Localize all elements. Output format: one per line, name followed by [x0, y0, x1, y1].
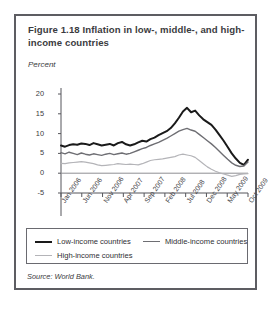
chart-legend: Low-income countriesMiddle-income countr…	[26, 228, 248, 264]
legend-swatch-icon	[143, 241, 160, 242]
legend-swatch-icon	[35, 241, 52, 243]
y-axis-tick-label: 5	[28, 148, 44, 157]
y-axis-tick-label: 0	[28, 168, 44, 177]
figure-container: Figure 1.18 Inflation in low-, middle-, …	[14, 14, 257, 290]
legend-item: High-income countries	[35, 249, 133, 262]
y-axis-tick-label: -5	[28, 188, 44, 197]
y-axis-tick-label: 15	[28, 109, 44, 118]
y-axis-tick-label: 10	[28, 129, 44, 138]
series-line	[61, 108, 248, 165]
legend-label: Low-income countries	[57, 237, 131, 246]
legend-item: Middle-income countries	[143, 235, 247, 248]
legend-label: Middle-income countries	[165, 237, 247, 246]
y-axis-tick-label: 20	[28, 89, 44, 98]
legend-item: Low-income countries	[35, 235, 131, 248]
legend-swatch-icon	[35, 255, 52, 256]
legend-label: High-income countries	[57, 251, 133, 260]
source-note: Source: World Bank.	[27, 272, 95, 281]
figure-title: Figure 1.18 Inflation in low-, middle-, …	[28, 24, 246, 49]
